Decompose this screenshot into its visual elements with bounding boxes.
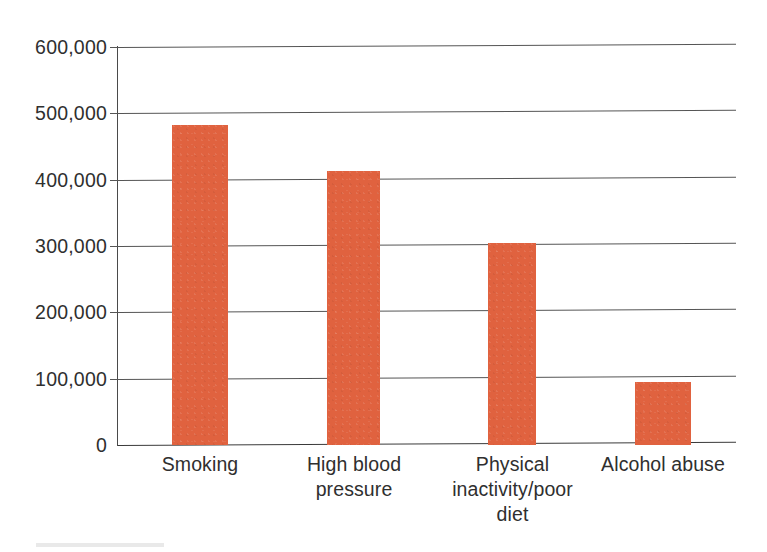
- x-axis-label-line: High blood: [272, 452, 436, 477]
- x-axis-label-2: High bloodpressure: [272, 452, 436, 502]
- x-axis-label-line: pressure: [272, 477, 436, 502]
- gridline: [118, 110, 736, 114]
- x-axis-label-3: Physicalinactivity/poordiet: [420, 452, 605, 527]
- y-axis-tick-label: 100,000: [35, 367, 107, 390]
- x-axis-label-line: diet: [420, 502, 605, 527]
- bar-2: [327, 171, 380, 445]
- plot-area: 0100,000200,000300,000400,000500,000600,…: [118, 47, 736, 445]
- x-axis-label-4: Alcohol abuse: [588, 452, 738, 477]
- y-axis-tick-label: 600,000: [35, 36, 107, 59]
- x-axis-label-line: inactivity/poor: [420, 477, 605, 502]
- x-axis-label-line: Physical: [420, 452, 605, 477]
- y-axis-tick-label: 0: [96, 434, 107, 457]
- x-axis-label-line: Alcohol abuse: [588, 452, 738, 477]
- x-axis-label-line: Smoking: [122, 452, 278, 477]
- tick-mark: [110, 113, 118, 114]
- scan-artifact: [36, 543, 164, 547]
- y-axis-tick-label: 400,000: [35, 168, 107, 191]
- bar-1: [172, 125, 228, 445]
- y-axis-tick-label: 300,000: [35, 235, 107, 258]
- bar-4: [635, 382, 691, 445]
- tick-mark: [110, 47, 118, 48]
- gridline: [118, 44, 736, 48]
- bar-chart: 0100,000200,000300,000400,000500,000600,…: [0, 0, 767, 552]
- x-axis-label-1: Smoking: [122, 452, 278, 477]
- bar-3: [488, 243, 536, 445]
- tick-mark: [110, 379, 118, 380]
- tick-mark: [110, 246, 118, 247]
- y-axis-tick-label: 500,000: [35, 102, 107, 125]
- tick-mark: [110, 312, 118, 313]
- tick-mark: [110, 180, 118, 181]
- y-axis-tick-label: 200,000: [35, 301, 107, 324]
